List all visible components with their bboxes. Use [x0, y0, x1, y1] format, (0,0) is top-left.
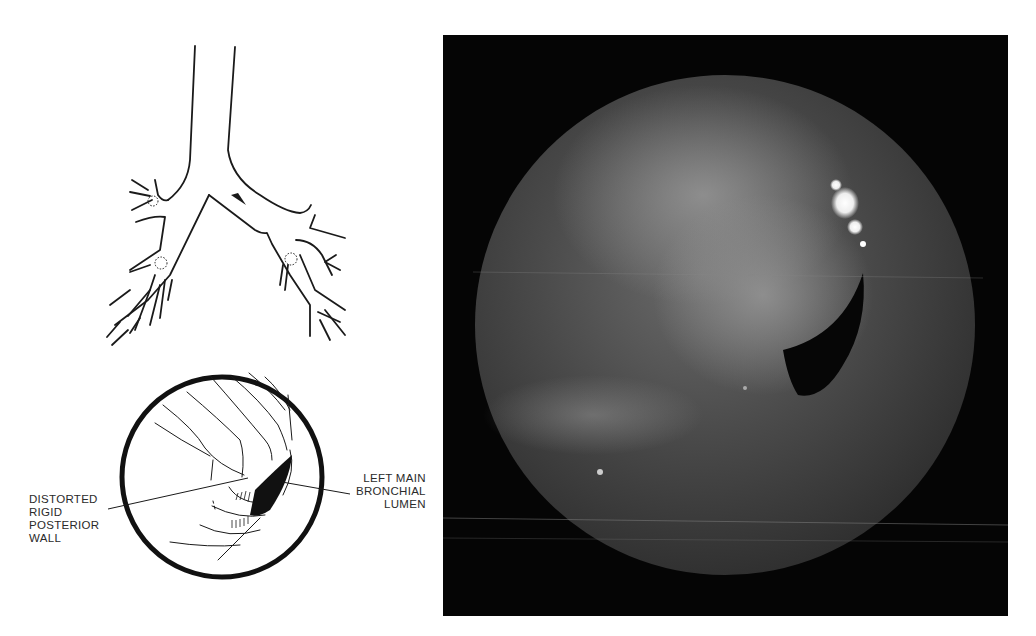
endoscopic-image [443, 35, 1008, 616]
endoscopic-field-circle [122, 377, 322, 577]
label-distorted-posterior-wall: DISTORTED RIGID POSTERIOR WALL [29, 493, 99, 545]
arrow-icon [231, 193, 246, 205]
bronchoscopic-photo [443, 35, 1008, 616]
diagram-panel: DISTORTED RIGID POSTERIOR WALL LEFT MAIN… [0, 0, 440, 636]
lumen-shading [250, 455, 292, 516]
label-left-main-bronchial-lumen: LEFT MAIN BRONCHIAL LUMEN [356, 472, 426, 511]
